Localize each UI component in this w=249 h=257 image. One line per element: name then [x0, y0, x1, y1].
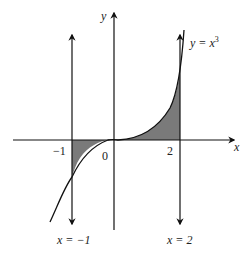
y-axis-label: y — [100, 9, 107, 23]
tick-label-zero: 0 — [102, 149, 108, 163]
curve-label-text: y = x — [189, 36, 215, 50]
curve-label-exponent: 3 — [215, 35, 219, 44]
vertical-line-label-right: x = 2 — [166, 233, 192, 247]
vertical-line-label-left: x = −1 — [56, 233, 91, 247]
shaded-region-right — [118, 68, 180, 140]
x-axis-label: x — [233, 140, 240, 154]
curve-label: y = x3 — [189, 35, 219, 50]
diagram-canvas: y x −1 0 2 y = x3 x = −1 x = 2 — [0, 0, 249, 257]
tick-label-two: 2 — [167, 144, 173, 158]
tick-label-minus-one: −1 — [53, 144, 66, 158]
